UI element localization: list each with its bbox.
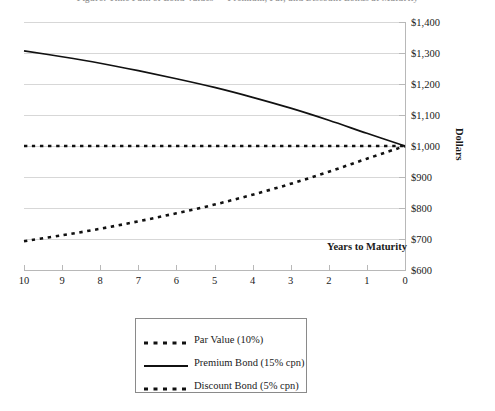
legend-item[interactable]: Par Value (10%) [136,331,308,347]
legend-item[interactable]: Premium Bond (15% cpn) [136,354,308,370]
legend-label: Premium Bond (15% cpn) [194,357,305,368]
chart-legend: Par Value (10%)Premium Bond (15% cpn)Dis… [135,318,307,393]
series-line [24,51,405,146]
legend-item[interactable]: Discount Bond (5% cpn) [136,377,308,393]
legend-swatch-dashed [144,334,188,344]
series-line [24,146,405,241]
legend-label: Par Value (10%) [194,334,263,345]
bond-value-chart: $1,400$1,300$1,200$1,100$1,000$900$800$7… [0,0,495,411]
legend-label: Discount Bond (5% cpn) [194,380,299,391]
legend-swatch-solid [144,357,188,367]
legend-swatch-dashed [144,380,188,390]
